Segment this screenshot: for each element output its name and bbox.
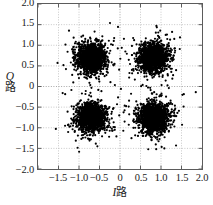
- x-tick-label: 2.0: [187, 173, 213, 183]
- scatter-cluster-symbol-11: [120, 25, 197, 93]
- x-axis-label-cjk: 路: [116, 186, 127, 199]
- y-tick-label: −1.0: [0, 123, 34, 133]
- y-tick-label: 1.5: [0, 18, 34, 28]
- y-tick-label: −1.5: [0, 144, 34, 154]
- y-tick-label: 1.0: [0, 39, 34, 49]
- scatter-cluster-symbol-00: [55, 84, 126, 153]
- y-tick-label: [0, 0, 34, 10]
- y-axis-label: Q 路: [2, 70, 18, 94]
- y-tick-label: 0.5: [0, 60, 34, 70]
- scatter-cluster-symbol-10: [116, 84, 185, 151]
- constellation-figure: 2.0 1.5 1.0 0.5 0 −0.5 −1.0 −1.5 −2.0 −1…: [0, 0, 213, 205]
- scatter-points-layer: [38, 4, 202, 169]
- plot-area: [37, 3, 203, 170]
- x-axis-label: I路: [37, 186, 203, 199]
- y-tick-label: −0.5: [0, 102, 34, 112]
- y-tick-label: −2.0: [0, 165, 34, 175]
- y-axis-label-cjk: 路: [2, 82, 18, 94]
